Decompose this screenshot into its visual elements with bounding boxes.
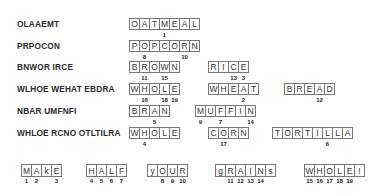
- letter: R: [141, 106, 147, 116]
- answer-word-boxes: OATM1EAL: [129, 18, 200, 30]
- letter: E: [347, 166, 353, 176]
- letter: L: [162, 84, 167, 94]
- letter: M: [161, 19, 168, 29]
- letter-cell[interactable]: E3: [51, 164, 62, 177]
- letter: D: [326, 84, 332, 94]
- letter: U: [169, 166, 175, 176]
- clue-number: 19: [170, 97, 179, 104]
- clue-number: 9: [196, 119, 205, 126]
- letter: A: [142, 19, 148, 29]
- letter: P: [152, 41, 158, 51]
- letter: T: [275, 128, 280, 138]
- clue-number: 17: [219, 141, 228, 148]
- letter: O: [141, 41, 148, 51]
- letter-cell[interactable]: E: [169, 127, 180, 139]
- letter: W: [130, 128, 138, 138]
- answer-word-boxes: BRA5N: [129, 105, 170, 117]
- letter-cell[interactable]: F7: [116, 164, 127, 177]
- answer-word-boxes: WH4OLE: [129, 127, 180, 139]
- letter: O: [284, 128, 291, 138]
- letter: F: [228, 106, 233, 116]
- letter: W: [209, 84, 217, 94]
- letter: H: [220, 84, 226, 94]
- letter: F: [119, 166, 124, 176]
- letter-cell[interactable]: N: [238, 127, 249, 139]
- letter: N: [171, 62, 177, 72]
- letter: O: [326, 166, 333, 176]
- letter-cell[interactable]: N: [169, 61, 180, 73]
- clue-number: 6: [323, 141, 332, 148]
- clue-number: 4: [87, 178, 96, 185]
- letter-cell[interactable]: A: [342, 127, 353, 139]
- clue-number: 1: [22, 178, 31, 185]
- letter: R: [141, 62, 147, 72]
- clue-number: 5: [150, 119, 159, 126]
- letter: H: [141, 128, 147, 138]
- letter: F: [218, 106, 223, 116]
- letter-cell[interactable]: L: [189, 18, 200, 30]
- answer-word-boxes: CO17RN: [208, 127, 249, 139]
- letter: M: [23, 166, 30, 176]
- answer-word-boxes: WH16OL18E19: [129, 83, 180, 95]
- letter: A: [317, 84, 323, 94]
- answer-word-boxes: yO8U9R10: [147, 164, 188, 177]
- letter: E: [172, 128, 178, 138]
- letter: R: [210, 62, 216, 72]
- clue-number: 7: [216, 119, 225, 126]
- answer-word-boxes: M1A2kE3: [21, 164, 62, 177]
- letter-cell[interactable]: E3: [238, 61, 249, 73]
- clue-number: 15: [160, 75, 169, 82]
- letter-cell[interactable]: R10: [177, 164, 188, 177]
- letter: B: [132, 106, 138, 116]
- answer-word-boxes: W15H16O17L18E19!: [304, 164, 365, 177]
- letter: N: [257, 166, 263, 176]
- letter: N: [247, 106, 253, 116]
- letter-cell[interactable]: N: [189, 40, 200, 52]
- answer-word-boxes: RIC13E3: [208, 61, 249, 73]
- answer-word-boxes: gR11A12I13N14s: [215, 164, 276, 177]
- clue-number: 13: [246, 178, 255, 185]
- letter-cell[interactable]: N: [159, 105, 170, 117]
- letter: L: [325, 128, 330, 138]
- letter-cell[interactable]: s: [265, 164, 276, 177]
- letter-cell[interactable]: D: [324, 83, 335, 95]
- letter: N: [240, 128, 246, 138]
- letter: H: [316, 166, 322, 176]
- clue-number: 6: [107, 178, 116, 185]
- clue-number: 17: [325, 178, 334, 185]
- letter: L: [192, 19, 197, 29]
- scrambled-word: NBAR UMFNFI: [17, 106, 77, 116]
- letter: O: [151, 62, 158, 72]
- letter: E: [307, 84, 313, 94]
- letter: y: [150, 166, 154, 176]
- letter-cell[interactable]: E19: [169, 83, 180, 95]
- letter: E: [231, 84, 237, 94]
- letter: C: [210, 128, 216, 138]
- letter: O: [151, 84, 158, 94]
- clue-number: 14: [246, 119, 255, 126]
- clue-number: 12: [236, 178, 245, 185]
- letter: k: [44, 166, 48, 176]
- clue-number: 10: [180, 54, 189, 61]
- scrambled-word: PRPOCON: [17, 41, 60, 51]
- letter-cell[interactable]: N14: [245, 105, 256, 117]
- letter-cell[interactable]: T: [248, 83, 259, 95]
- scrambled-word: OLAAEMT: [17, 19, 59, 29]
- letter: N: [191, 41, 197, 51]
- letter-cell[interactable]: !: [354, 164, 365, 177]
- clue-number: 8: [158, 178, 167, 185]
- answer-word-boxes: WHEA2T: [208, 83, 259, 95]
- letter: P: [132, 41, 138, 51]
- clue-number: 18: [160, 97, 169, 104]
- letter: O: [159, 166, 166, 176]
- letter: A: [152, 106, 158, 116]
- letter: L: [335, 128, 340, 138]
- clue-number: 15: [305, 178, 314, 185]
- letter: E: [172, 84, 178, 94]
- letter: s: [268, 166, 272, 176]
- clue-number: 2: [239, 97, 248, 104]
- letter: N: [161, 106, 167, 116]
- letter: E: [172, 19, 178, 29]
- letter: H: [88, 166, 94, 176]
- clue-number: 16: [315, 178, 324, 185]
